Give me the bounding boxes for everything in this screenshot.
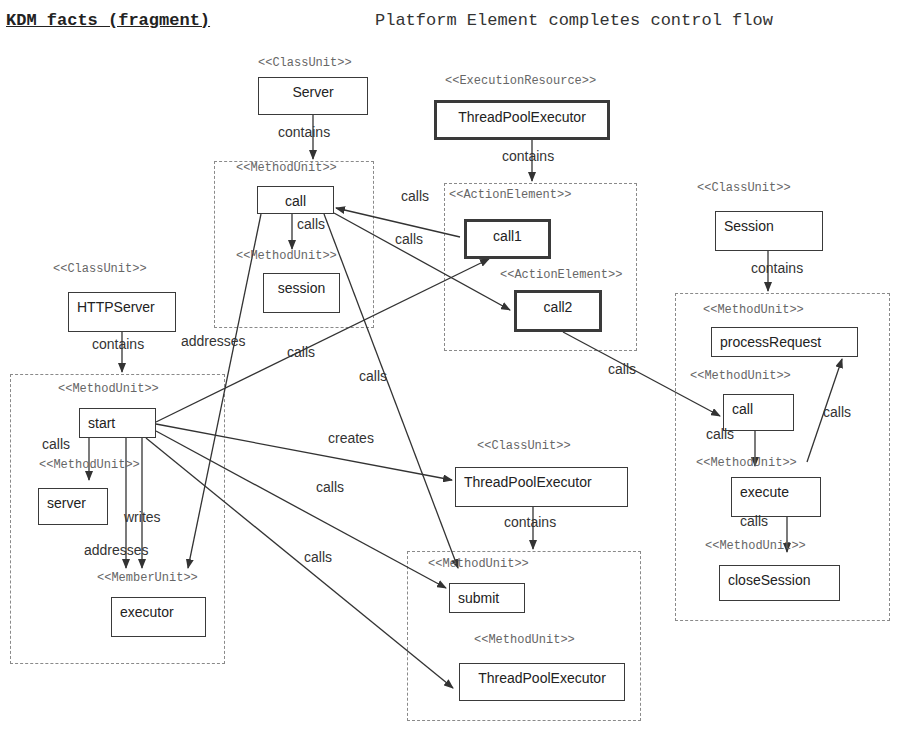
- stereotype-label: <<ClassUnit>>: [477, 439, 571, 453]
- node-server-call[interactable]: call: [257, 186, 334, 214]
- node-label: processRequest: [720, 334, 821, 350]
- node-label: Server: [292, 84, 333, 100]
- edge-label: calls: [706, 426, 734, 442]
- stereotype-label: <<MethodUnit>>: [474, 633, 575, 647]
- stereotype-label: <<ExecutionResource>>: [445, 74, 596, 88]
- node-label: submit: [458, 590, 499, 606]
- edge-label: contains: [751, 260, 803, 276]
- edge-label: addresses: [181, 333, 246, 349]
- node-label: executor: [120, 604, 174, 620]
- stereotype-label: <<ClassUnit>>: [697, 181, 791, 195]
- stereotype-label: <<MethodUnit>>: [428, 557, 529, 571]
- node-label: call2: [544, 299, 573, 315]
- node-session-method[interactable]: session: [263, 273, 340, 313]
- node-label: ThreadPoolExecutor: [478, 670, 606, 686]
- node-label: call: [732, 401, 753, 417]
- edge-label: contains: [504, 514, 556, 530]
- stereotype-label: <<ActionElement>>: [449, 188, 571, 202]
- node-label: closeSession: [728, 572, 811, 588]
- edge-label: calls: [359, 368, 387, 384]
- edge-label: contains: [278, 124, 330, 140]
- edge-label: writes: [124, 509, 161, 525]
- diagram-title: KDM facts (fragment): [6, 11, 210, 30]
- node-session-class[interactable]: Session: [715, 211, 823, 251]
- stereotype-label: <<MemberUnit>>: [97, 571, 198, 585]
- stereotype-label: <<ClassUnit>>: [258, 56, 352, 70]
- diagram-subtitle: Platform Element completes control flow: [375, 11, 773, 30]
- node-label: session: [278, 280, 325, 296]
- edge-label: creates: [328, 430, 374, 446]
- edge-label: calls: [395, 231, 423, 247]
- node-label: ThreadPoolExecutor: [458, 109, 586, 125]
- node-execute[interactable]: execute: [731, 477, 821, 517]
- edge-label: calls: [401, 188, 429, 204]
- edge-label: calls: [823, 404, 851, 420]
- node-label: start: [88, 415, 115, 431]
- edge-label: contains: [92, 336, 144, 352]
- stereotype-label: <<MethodUnit>>: [236, 249, 337, 263]
- edge-label: calls: [316, 479, 344, 495]
- stereotype-label: <<MethodUnit>>: [236, 161, 337, 175]
- edge-label: calls: [297, 216, 325, 232]
- node-label: ThreadPoolExecutor: [464, 474, 592, 490]
- node-tpe-class[interactable]: ThreadPoolExecutor: [455, 467, 628, 507]
- stereotype-label: <<MethodUnit>>: [39, 458, 140, 472]
- stereotype-label: <<MethodUnit>>: [703, 303, 804, 317]
- node-label: HTTPServer: [77, 299, 155, 315]
- node-label: Session: [724, 218, 774, 234]
- node-server[interactable]: Server: [258, 77, 368, 115]
- node-label: server: [47, 495, 86, 511]
- edge-label: contains: [502, 148, 554, 164]
- edge-label: calls: [287, 344, 315, 360]
- edge-label: calls: [740, 513, 768, 529]
- edge-label: calls: [42, 436, 70, 452]
- node-tpe-ctor[interactable]: ThreadPoolExecutor: [459, 663, 625, 701]
- edge-label: addresses: [84, 542, 149, 558]
- kdm-diagram-canvas: KDM facts (fragment) Platform Element co…: [0, 0, 899, 736]
- node-tpe-resource[interactable]: ThreadPoolExecutor: [434, 100, 610, 140]
- stereotype-label: <<MethodUnit>>: [690, 369, 791, 383]
- node-executor[interactable]: executor: [111, 597, 206, 637]
- stereotype-label: <<MethodUnit>>: [705, 539, 806, 553]
- edge-label: calls: [304, 549, 332, 565]
- stereotype-label: <<ActionElement>>: [500, 268, 622, 282]
- node-submit[interactable]: submit: [449, 583, 525, 613]
- node-start[interactable]: start: [79, 408, 156, 438]
- stereotype-label: <<MethodUnit>>: [58, 382, 159, 396]
- node-label: call: [285, 193, 306, 209]
- stereotype-label: <<MethodUnit>>: [696, 456, 797, 470]
- node-httpserver[interactable]: HTTPServer: [68, 292, 176, 332]
- node-processRequest[interactable]: processRequest: [711, 327, 858, 357]
- node-label: execute: [740, 484, 789, 500]
- node-call1[interactable]: call1: [464, 219, 551, 259]
- node-call2[interactable]: call2: [514, 290, 602, 332]
- node-server-method[interactable]: server: [38, 488, 108, 525]
- stereotype-label: <<ClassUnit>>: [53, 262, 147, 276]
- node-closeSession[interactable]: closeSession: [719, 565, 840, 601]
- edge-label: calls: [608, 361, 636, 377]
- node-label: call1: [493, 228, 522, 244]
